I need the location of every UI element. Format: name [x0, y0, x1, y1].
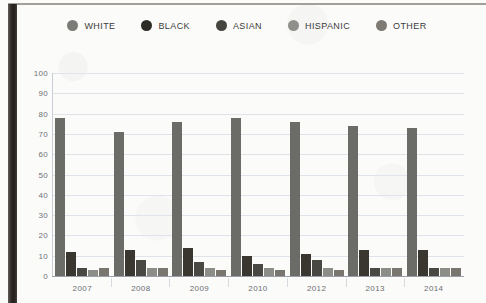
legend-item-hispanic: HISPANIC: [288, 20, 350, 31]
bar-black-2014: [418, 250, 428, 276]
legend-item-white: WHITE: [67, 20, 115, 31]
bar-black-2013: [359, 250, 369, 276]
y-tick-label: 60: [39, 150, 49, 159]
bar-other-2014: [451, 268, 461, 276]
x-tick-label-2008: 2008: [112, 284, 171, 293]
bar-hispanic-2012: [323, 268, 333, 276]
bar-group-2014: [404, 73, 463, 276]
y-tick-label: 40: [39, 191, 49, 200]
y-tick-label: 100: [34, 69, 48, 78]
x-axis-tick-labels: 2007200820092010201220132014: [53, 284, 463, 293]
x-tick-label-2010: 2010: [229, 284, 288, 293]
bar-asian-2010: [253, 264, 263, 276]
y-axis-tick-labels: 1009080706050403020100: [24, 66, 48, 282]
y-tick-label: 50: [39, 171, 49, 180]
bar-group-2007: [53, 73, 112, 276]
y-tick-label: 10: [39, 252, 49, 261]
bar-other-2007: [99, 268, 109, 276]
y-tick-label: 0: [43, 272, 48, 281]
chart-legend: WHITEBLACKASIANHISPANICOTHER: [17, 20, 477, 31]
bar-white-2009: [172, 122, 182, 276]
bar-white-2014: [407, 128, 417, 276]
legend-dot-icon: [288, 20, 299, 31]
y-tick-label: 30: [39, 211, 49, 220]
bar-other-2013: [392, 268, 402, 276]
bar-hispanic-2013: [381, 268, 391, 276]
x-tick-label-2009: 2009: [170, 284, 229, 293]
bar-hispanic-2010: [264, 268, 274, 276]
y-tick-label: 80: [39, 110, 49, 119]
bar-white-2012: [290, 122, 300, 276]
bar-other-2009: [216, 270, 226, 276]
x-axis-baseline: [52, 276, 464, 277]
scanned-chart-page: WHITEBLACKASIANHISPANICOTHER 10090807060…: [0, 0, 486, 303]
bar-hispanic-2008: [147, 268, 157, 276]
scan-top-edge: [8, 3, 486, 5]
x-tick-label-2014: 2014: [404, 284, 463, 293]
bar-group-2008: [112, 73, 171, 276]
y-tick-label: 90: [39, 89, 49, 98]
bar-black-2010: [242, 256, 252, 276]
bar-black-2008: [125, 250, 135, 276]
bar-groups: [53, 73, 463, 276]
legend-item-label: HISPANIC: [305, 21, 350, 31]
scan-binding-edge: [8, 4, 17, 303]
bar-white-2007: [55, 118, 65, 276]
y-tick-label: 20: [39, 231, 49, 240]
bar-group-2009: [170, 73, 229, 276]
bar-asian-2007: [77, 268, 87, 276]
bar-group-2013: [346, 73, 405, 276]
legend-item-label: ASIAN: [233, 21, 262, 31]
bar-asian-2014: [429, 268, 439, 276]
legend-dot-icon: [67, 20, 78, 31]
legend-item-label: OTHER: [393, 21, 427, 31]
legend-dot-icon: [216, 20, 227, 31]
bar-asian-2012: [312, 260, 322, 276]
bar-white-2008: [114, 132, 124, 276]
legend-item-black: BLACK: [141, 20, 190, 31]
bar-other-2010: [275, 270, 285, 276]
bar-black-2009: [183, 248, 193, 276]
bar-black-2012: [301, 254, 311, 276]
legend-dot-icon: [376, 20, 387, 31]
x-tick-label-2012: 2012: [287, 284, 346, 293]
bar-white-2010: [231, 118, 241, 276]
bar-group-2012: [287, 73, 346, 276]
bar-black-2007: [66, 252, 76, 276]
bar-asian-2009: [194, 262, 204, 276]
legend-item-asian: ASIAN: [216, 20, 262, 31]
bar-hispanic-2014: [440, 268, 450, 276]
legend-item-label: WHITE: [84, 21, 115, 31]
bar-other-2012: [334, 270, 344, 276]
bar-asian-2008: [136, 260, 146, 276]
bar-hispanic-2007: [88, 270, 98, 276]
bar-group-2010: [229, 73, 288, 276]
x-tick-label-2013: 2013: [346, 284, 405, 293]
bar-white-2013: [348, 126, 358, 276]
bar-other-2008: [158, 268, 168, 276]
legend-item-other: OTHER: [376, 20, 427, 31]
bar-hispanic-2009: [205, 268, 215, 276]
legend-dot-icon: [141, 20, 152, 31]
y-tick-label: 70: [39, 130, 49, 139]
x-tick-label-2007: 2007: [53, 284, 112, 293]
bar-asian-2013: [370, 268, 380, 276]
legend-item-label: BLACK: [158, 21, 190, 31]
